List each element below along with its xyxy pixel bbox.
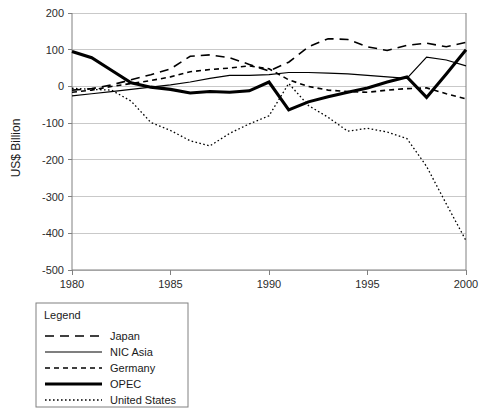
x-tick-label: 1985 [158,278,182,290]
y-tick-labels: 2001000-100-200-300-400-500 [42,7,64,276]
y-tick-label: -200 [42,154,64,166]
y-tick-label: 100 [46,44,64,56]
legend-title: Legend [44,309,81,321]
x-tick-label: 2000 [454,278,478,290]
chart-container: 2001000-100-200-300-400-500 198019851990… [0,0,488,417]
line-chart: 2001000-100-200-300-400-500 198019851990… [0,0,488,417]
legend: Legend JapanNIC AsiaGermanyOPECUnited St… [36,303,188,407]
x-tick-label: 1990 [257,278,281,290]
legend-label-united-states: United States [110,394,177,406]
y-axis-title: US$ Billion [9,119,23,178]
legend-label-japan: Japan [110,330,140,342]
series-line-united-states [72,83,466,240]
grid-lines [72,13,466,270]
y-tick-label: 0 [58,80,64,92]
y-tick-label: -300 [42,191,64,203]
y-tick-label: -500 [42,264,64,276]
y-tick-label: -400 [42,227,64,239]
x-tick-label: 1980 [60,278,84,290]
legend-label-nic-asia: NIC Asia [110,346,154,358]
y-tick-label: -100 [42,117,64,129]
x-tick-label: 1995 [355,278,379,290]
y-tick-label: 200 [46,7,64,19]
legend-label-opec: OPEC [110,378,141,390]
x-tick-marks [72,270,466,275]
legend-label-germany: Germany [110,362,156,374]
x-tick-labels: 19801985199019952000 [60,278,478,290]
data-series [72,39,466,241]
y-tick-marks [68,13,72,270]
